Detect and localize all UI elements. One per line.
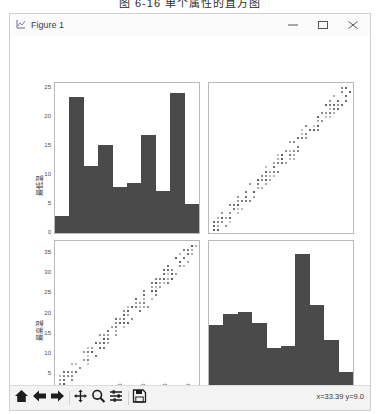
scatter-point: [285, 162, 287, 164]
close-button[interactable]: [338, 14, 368, 36]
pan-button[interactable]: [73, 389, 90, 407]
scatter-point: [229, 204, 231, 206]
scatter-point: [305, 133, 307, 135]
subplot-hist-max-temp[interactable]: [208, 240, 354, 388]
scatter-point: [59, 379, 61, 381]
scatter-point: [265, 175, 267, 177]
scatter-point: [237, 208, 239, 210]
scatter-point: [329, 104, 331, 106]
scatter-point: [329, 100, 331, 102]
scatter-point: [217, 225, 219, 227]
scatter-point: [171, 278, 173, 280]
scatter-point: [213, 225, 215, 227]
subplots-button[interactable]: [109, 389, 126, 407]
scatter-point: [297, 150, 299, 152]
scatter-point: [167, 273, 169, 275]
axis-tick-label: 25: [44, 84, 51, 90]
scatter-point: [273, 175, 275, 177]
scatter-point: [293, 150, 295, 152]
scatter-point: [107, 334, 109, 336]
scatter-point: [225, 225, 227, 227]
axis-tick: [54, 334, 55, 335]
scatter-point: [233, 204, 235, 206]
scatter-point: [135, 306, 137, 308]
scatter-point: [317, 125, 319, 127]
scatter-point: [253, 196, 255, 198]
scatter-point: [95, 342, 97, 344]
scatter-point: [175, 273, 177, 275]
scatter-point: [237, 212, 239, 214]
axis-tick-label: 5: [48, 370, 51, 376]
scatter-point: [241, 208, 243, 210]
scatter-point: [151, 286, 153, 288]
scatter-point: [155, 294, 157, 296]
axis-title-y-topleft: 最低温: [34, 175, 44, 196]
scatter-point: [147, 306, 149, 308]
scatter-point: [63, 371, 65, 373]
minimize-button[interactable]: [278, 14, 308, 36]
scatter-point: [123, 322, 125, 324]
figure-canvas[interactable]: 最低温 最高温 最低温 最高温 051015202551015202530350…: [10, 36, 370, 388]
subplot-scatter-min-vs-max[interactable]: [54, 240, 200, 388]
axis-tick-label: 10: [44, 350, 51, 356]
scatter-point: [229, 212, 231, 214]
scatter-point: [83, 351, 85, 353]
histogram-bar: [141, 135, 155, 233]
scatter-point: [195, 245, 197, 247]
scatter-point: [87, 359, 89, 361]
scatter-point: [167, 278, 169, 280]
axis-tick-label: 15: [44, 142, 51, 148]
scatter-point: [321, 120, 323, 122]
scatter-point: [155, 290, 157, 292]
scatter-point: [115, 326, 117, 328]
back-button[interactable]: [32, 389, 49, 407]
scatter-point: [329, 108, 331, 110]
scatter-point: [159, 282, 161, 284]
axis-tick-label: 20: [44, 310, 51, 316]
scatter-point: [321, 112, 323, 114]
scatter-point: [75, 363, 77, 365]
scatter-point: [119, 318, 121, 320]
save-button[interactable]: [132, 389, 149, 407]
scatter-point: [155, 278, 157, 280]
scatter-point: [333, 108, 335, 110]
scatter-point: [273, 171, 275, 173]
scatter-point: [103, 338, 105, 340]
subplot-scatter-max-vs-min[interactable]: [208, 82, 354, 234]
scatter-point: [71, 375, 73, 377]
scatter-point: [337, 108, 339, 110]
forward-button[interactable]: [50, 389, 67, 407]
scatter-point: [79, 367, 81, 369]
scatter-point: [183, 257, 185, 259]
axis-tick: [54, 204, 55, 205]
axis-tick: [54, 233, 55, 234]
scatter-point: [265, 171, 267, 173]
scatter-point: [277, 162, 279, 164]
home-button[interactable]: [14, 389, 31, 407]
zoom-button[interactable]: [91, 389, 108, 407]
histogram-bar: [113, 187, 127, 233]
scatter-point: [83, 359, 85, 361]
histogram-bar: [185, 204, 199, 233]
scatter-point: [337, 100, 339, 102]
scatter-point: [111, 326, 113, 328]
scatter-point: [119, 322, 121, 324]
scatter-point: [87, 355, 89, 357]
scatter-point: [213, 221, 215, 223]
scatter-point: [71, 371, 73, 373]
axis-tick: [54, 147, 55, 148]
subplot-hist-min-temp[interactable]: [54, 82, 200, 234]
scatter-point: [277, 154, 279, 156]
scatter-point: [345, 100, 347, 102]
scatter-point: [221, 217, 223, 219]
maximize-button[interactable]: [308, 14, 338, 36]
scatter-point: [103, 334, 105, 336]
scatter-point: [329, 112, 331, 114]
axis-tick-label: 30: [44, 269, 51, 275]
scatter-point: [179, 261, 181, 263]
scatter-point: [325, 112, 327, 114]
scatter-point: [115, 318, 117, 320]
title-bar: Figure 1: [10, 14, 370, 37]
histogram-bar: [98, 145, 112, 233]
histogram-bar: [267, 348, 281, 387]
